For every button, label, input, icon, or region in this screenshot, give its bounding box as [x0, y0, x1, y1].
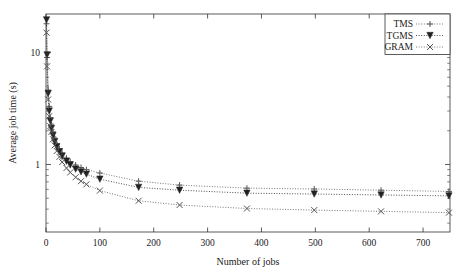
x-tick-label: 400	[254, 238, 269, 248]
y-axis-label: Average job time (s)	[7, 82, 19, 164]
x-tick-label: 100	[93, 238, 108, 248]
legend-label-tms: TMS	[393, 19, 413, 29]
y-tick-label: 1	[35, 160, 40, 170]
legend-label-tgms: TGMS	[387, 31, 413, 41]
x-axis-label: Number of jobs	[217, 256, 280, 267]
legend-label-gram: GRAM	[384, 42, 413, 52]
y-tick-label: 10	[31, 48, 41, 58]
x-tick-label: 0	[44, 238, 49, 248]
chart-figure: 0100200300400500600700 110 Number of job…	[0, 0, 465, 280]
x-tick-label: 200	[147, 238, 162, 248]
chart-legend: TMSTGMSGRAM	[384, 14, 450, 55]
x-tick-label: 500	[308, 238, 323, 248]
x-tick-label: 600	[362, 238, 377, 248]
x-tick-label: 300	[200, 238, 215, 248]
line-chart: 0100200300400500600700 110 Number of job…	[0, 0, 465, 280]
x-tick-label: 700	[416, 238, 431, 248]
